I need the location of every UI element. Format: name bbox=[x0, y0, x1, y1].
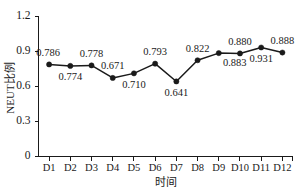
x-tick-label: D9 bbox=[212, 162, 225, 173]
data-point-label: 0.786 bbox=[36, 47, 60, 58]
y-tick-group bbox=[35, 16, 39, 157]
x-tick-label: D8 bbox=[191, 162, 204, 173]
data-point-marker bbox=[174, 79, 179, 84]
x-tick-label: D2 bbox=[64, 162, 77, 173]
data-point-marker bbox=[237, 51, 242, 56]
x-tick-label: D7 bbox=[170, 162, 183, 173]
chart-container: 00.30.60.91.2 D1D2D3D4D5D6D7D8D9D10D11D1… bbox=[0, 0, 304, 194]
data-point-marker bbox=[280, 50, 285, 55]
y-axis-title: NEUT比例 bbox=[3, 62, 16, 113]
x-tick-label: D3 bbox=[85, 162, 98, 173]
data-point-label: 0.931 bbox=[249, 53, 273, 64]
x-tick-label: D1 bbox=[43, 162, 56, 173]
data-point-marker bbox=[68, 63, 73, 68]
x-tick-label: D4 bbox=[106, 162, 120, 173]
data-point-label: 0.880 bbox=[228, 36, 252, 47]
y-tick-label: 0.6 bbox=[16, 79, 31, 91]
y-tick-label: 1.2 bbox=[16, 9, 31, 21]
data-point-label: 0.710 bbox=[122, 79, 146, 90]
data-point-marker bbox=[131, 71, 136, 76]
data-point-label: 0.671 bbox=[101, 60, 125, 71]
x-tick-label-group: D1D2D3D4D5D6D7D8D9D10D11D12 bbox=[43, 162, 292, 173]
data-point-label: 0.888 bbox=[271, 35, 295, 46]
data-point-label: 0.883 bbox=[223, 57, 247, 68]
data-point-label: 0.641 bbox=[165, 87, 189, 98]
data-point-marker bbox=[89, 63, 94, 68]
data-point-label: 0.778 bbox=[80, 48, 104, 59]
x-tick-label: D11 bbox=[252, 162, 270, 173]
data-point-label: 0.822 bbox=[186, 43, 210, 54]
x-tick-label: D10 bbox=[231, 162, 249, 173]
data-point-marker bbox=[153, 61, 158, 66]
line-chart: 00.30.60.91.2 D1D2D3D4D5D6D7D8D9D10D11D1… bbox=[0, 0, 304, 194]
data-point-marker bbox=[47, 62, 52, 67]
x-tick-label: D5 bbox=[128, 162, 141, 173]
data-point-label: 0.774 bbox=[59, 71, 83, 82]
x-tick-group bbox=[49, 157, 292, 161]
data-point-marker bbox=[259, 45, 264, 50]
data-point-marker bbox=[195, 58, 200, 63]
x-tick-label: D12 bbox=[273, 162, 291, 173]
x-axis-title: 时间 bbox=[155, 176, 177, 188]
data-point-label: 0.793 bbox=[143, 46, 167, 57]
y-tick-label: 0.9 bbox=[16, 44, 31, 56]
x-tick-label: D6 bbox=[149, 162, 162, 173]
data-point-marker bbox=[110, 75, 115, 80]
data-point-marker bbox=[216, 51, 221, 56]
y-tick-label: 0.3 bbox=[16, 114, 31, 126]
y-tick-label: 0 bbox=[25, 149, 31, 161]
y-tick-label-group: 00.30.60.91.2 bbox=[16, 9, 31, 162]
